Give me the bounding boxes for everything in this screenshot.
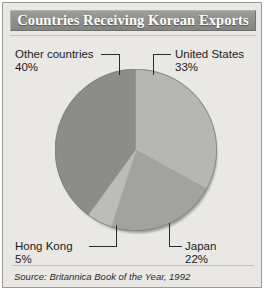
slice-label-united-states: United States 33% bbox=[175, 48, 244, 74]
pie-chart: Other countries 40% United States 33% Ho… bbox=[3, 3, 262, 288]
chart-figure-panel: Countries Receiving Korean Exports bbox=[2, 2, 262, 288]
slice-label-hong-kong-name: Hong Kong bbox=[15, 240, 73, 252]
source-divider bbox=[12, 265, 254, 266]
source-citation: Source: Britannica Book of the Year, 199… bbox=[14, 271, 190, 282]
slice-label-other-countries: Other countries 40% bbox=[15, 48, 94, 74]
pie-slices bbox=[55, 69, 217, 231]
slice-label-united-states-pct: 33% bbox=[175, 61, 244, 74]
slice-label-united-states-name: United States bbox=[175, 48, 244, 60]
slice-label-japan: Japan 22% bbox=[185, 240, 216, 266]
slice-label-other-countries-pct: 40% bbox=[15, 61, 94, 74]
slice-label-hong-kong: Hong Kong 5% bbox=[15, 240, 73, 266]
slice-label-other-countries-name: Other countries bbox=[15, 48, 94, 60]
slice-label-japan-name: Japan bbox=[185, 240, 216, 252]
